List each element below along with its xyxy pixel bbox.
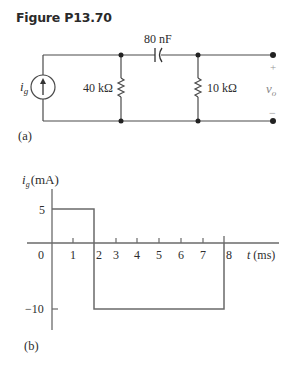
minus-sign: − — [269, 106, 276, 120]
node-dot — [119, 119, 124, 124]
x-tick-labels: 0 1 2 3 4 5 6 7 8 — [38, 248, 232, 262]
svg-text:2: 2 — [96, 248, 102, 262]
node-dot — [196, 53, 201, 58]
svg-text:3: 3 — [113, 248, 119, 262]
y-tick-label-5: 5 — [39, 203, 45, 217]
capacitor-label: 80 nF — [144, 32, 172, 46]
node-dot — [196, 119, 201, 124]
resistor-right-label: 10 kΩ — [207, 81, 237, 95]
circuit-diagram: ig 40 kΩ 80 nF 10 kΩ + vo − (a) — [18, 32, 277, 143]
svg-text:4: 4 — [134, 248, 140, 262]
y-tick-label-neg10: −10 — [25, 302, 44, 316]
graph-part-label: (b) — [24, 339, 39, 353]
svg-text:5: 5 — [156, 248, 162, 262]
figure-canvas: ig 40 kΩ 80 nF 10 kΩ + vo − (a) ig(mA) — [0, 0, 294, 370]
svg-text:1: 1 — [70, 248, 76, 262]
source-label: ig — [20, 79, 29, 96]
svg-text:6: 6 — [178, 248, 184, 262]
current-waveform-chart: ig(mA) 0 1 2 3 4 5 6 7 8 t — [22, 172, 279, 353]
capacitor-icon — [155, 48, 162, 62]
resistor-40k-icon — [118, 78, 124, 97]
output-label: vo — [266, 81, 277, 98]
plus-sign: + — [270, 61, 276, 73]
svg-text:0: 0 — [38, 248, 44, 262]
node-dot — [119, 53, 124, 58]
svg-text:8: 8 — [226, 248, 232, 262]
resistor-10k-icon — [195, 78, 201, 97]
current-source-icon — [31, 75, 55, 99]
circuit-part-label: (a) — [18, 129, 32, 143]
terminal-plus-icon — [270, 52, 276, 58]
svg-text:7: 7 — [200, 248, 206, 262]
x-ticks — [73, 238, 203, 243]
x-axis-label: t (ms) — [247, 248, 275, 262]
resistor-left-label: 40 kΩ — [83, 81, 113, 95]
y-axis-label: ig(mA) — [22, 172, 59, 189]
